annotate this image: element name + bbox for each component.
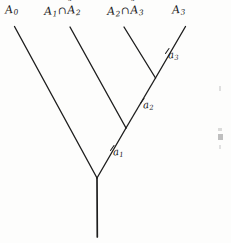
node-label-a2: a2 [142,100,154,113]
node-a3-subscript: 3 [174,54,179,62]
node-a1-subscript: 1 [119,151,124,159]
leaf-a2-subscript: 2 [75,8,81,17]
leaf-a3-tilde-group: ˜A [130,4,139,15]
branch-a0 [15,27,98,179]
leaf-label-a2-inter-a3: A2∩˜A3 [107,4,144,19]
scan-artifact [219,145,221,149]
scan-artifact [218,134,223,140]
leaf-label-a0: A0 [5,4,19,18]
scan-artifact [219,86,221,91]
node-label-a1: a1 [112,147,124,160]
scan-artifact [218,128,222,131]
tree-diagram-figure: A0 A1∩˜A2 A2∩˜A3 A3 a1 a2 a3 [0,0,231,243]
leaf-label-a3: A3 [172,4,186,18]
leaf-a3-subscript: 3 [138,8,144,17]
leaf-a2-tilde-group: ˜A [67,4,76,15]
node-label-a3: a3 [167,50,179,63]
leaf-label-a1-inter-a2: A1∩˜A2 [44,4,81,19]
tilde-icon: ˜ [131,0,137,8]
tilde-icon: ˜ [68,0,74,8]
leaf-a0-subscript: 0 [13,8,19,17]
branch-a1-inter-a2 [70,27,126,128]
tree-svg [0,0,231,243]
node-a2-subscript: 2 [149,104,154,112]
branch-a2-inter-a3 [124,27,156,78]
leaf-a3b-subscript: 3 [180,8,186,17]
